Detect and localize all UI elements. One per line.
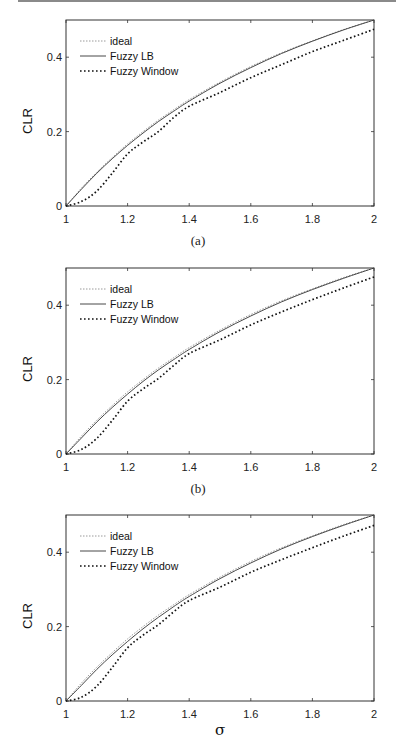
x-tick-label: 2 [371, 461, 377, 473]
x-tick-label: 2 [371, 213, 377, 225]
y-tick-label: 0 [56, 448, 62, 460]
legend-label: Fuzzy LB [110, 298, 154, 310]
legend: idealFuzzy LBFuzzy Window [80, 35, 179, 77]
series-fuzzy-lb [66, 515, 374, 701]
x-tick-label: 1.6 [243, 213, 258, 225]
x-tick-label: 1.8 [305, 708, 320, 720]
x-axis-label: σ [215, 226, 225, 232]
y-tick-label: 0 [56, 200, 62, 212]
series-fuzzy-lb [66, 268, 374, 454]
legend-label: Fuzzy Window [110, 313, 179, 325]
y-tick-label: 0.2 [47, 374, 62, 386]
y-tick-label: 0 [56, 695, 62, 707]
x-tick-label: 1.4 [182, 461, 197, 473]
chart-panel-a: 11.21.41.61.8200.20.4σCLRidealFuzzy LBFu… [0, 0, 396, 232]
y-axis-label: CLR [20, 603, 35, 629]
legend-label: ideal [110, 35, 132, 47]
chart-c: 11.21.41.61.8200.20.4σCLRidealFuzzy LBFu… [0, 495, 396, 738]
legend-label: ideal [110, 530, 132, 542]
legend: idealFuzzy LBFuzzy Window [80, 530, 179, 572]
x-tick-label: 1 [63, 708, 69, 720]
y-axis: 00.20.4 [47, 546, 374, 707]
x-tick-label: 1 [63, 461, 69, 473]
plot-frame [66, 515, 374, 701]
x-tick-label: 1.6 [243, 708, 258, 720]
chart-a: 11.21.41.61.8200.20.4σCLRidealFuzzy LBFu… [0, 0, 396, 232]
x-tick-label: 1.8 [305, 461, 320, 473]
x-tick-label: 1.2 [120, 461, 135, 473]
series-ideal [66, 515, 374, 701]
plot-frame [66, 268, 374, 454]
chart-b: 11.21.41.61.8200.20.4σCLRidealFuzzy LBFu… [0, 248, 396, 480]
plot-frame [66, 20, 374, 206]
legend: idealFuzzy LBFuzzy Window [80, 283, 179, 325]
series-fuzzy-lb [66, 20, 374, 206]
y-tick-label: 0.4 [47, 51, 62, 63]
x-tick-label: 1.4 [182, 213, 197, 225]
y-tick-label: 0.2 [47, 621, 62, 633]
y-axis: 00.20.4 [47, 299, 374, 460]
series-ideal [66, 20, 374, 206]
caption-a: (a) [0, 233, 396, 249]
x-tick-label: 1.4 [182, 708, 197, 720]
x-tick-label: 1.6 [243, 461, 258, 473]
series-ideal [66, 268, 374, 454]
legend-label: Fuzzy LB [110, 545, 154, 557]
x-tick-label: 1 [63, 213, 69, 225]
x-tick-label: 2 [371, 708, 377, 720]
x-axis-label: σ [215, 721, 225, 738]
legend-label: Fuzzy LB [110, 50, 154, 62]
x-tick-label: 1.2 [120, 708, 135, 720]
legend-label: Fuzzy Window [110, 65, 179, 77]
x-tick-label: 1.8 [305, 213, 320, 225]
chart-panel-c: 11.21.41.61.8200.20.4σCLRidealFuzzy LBFu… [0, 495, 396, 738]
chart-panel-b: 11.21.41.61.8200.20.4σCLRidealFuzzy LBFu… [0, 248, 396, 480]
y-axis-label: CLR [20, 356, 35, 382]
y-axis-label: CLR [20, 108, 35, 134]
y-tick-label: 0.4 [47, 546, 62, 558]
legend-label: ideal [110, 283, 132, 295]
x-tick-label: 1.2 [120, 213, 135, 225]
y-axis: 00.20.4 [47, 51, 374, 212]
y-tick-label: 0.4 [47, 299, 62, 311]
x-axis-label: σ [215, 474, 225, 480]
y-tick-label: 0.2 [47, 126, 62, 138]
legend-label: Fuzzy Window [110, 560, 179, 572]
